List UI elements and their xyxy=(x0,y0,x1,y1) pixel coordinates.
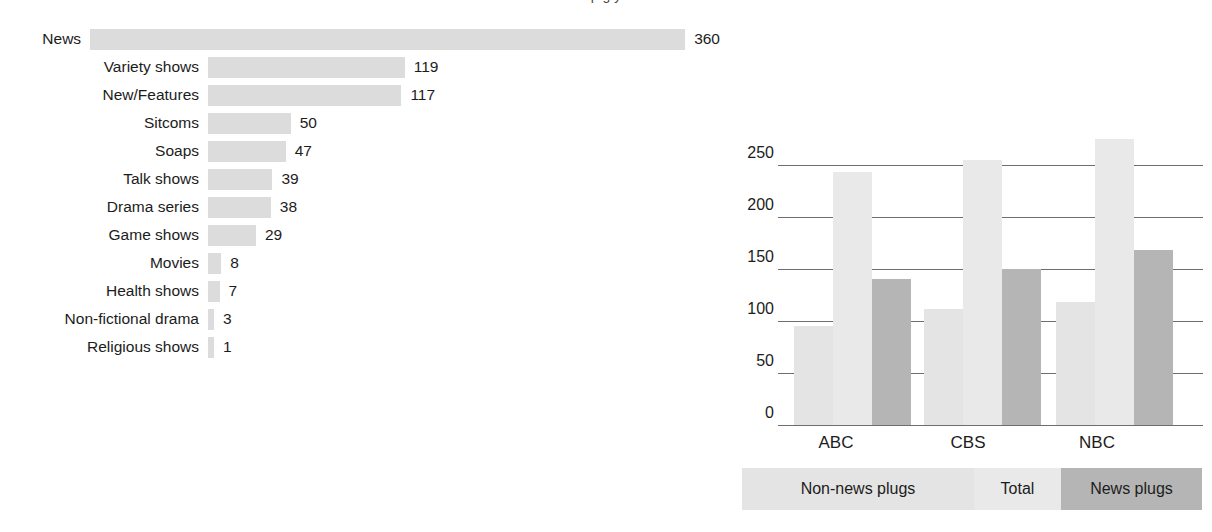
legend-item-total: Total xyxy=(974,468,1061,510)
bar-total-cbs xyxy=(963,160,1002,425)
bar-value-label: 47 xyxy=(286,140,312,162)
bar-group-abc xyxy=(794,165,911,425)
bar-track xyxy=(208,196,271,218)
bar-value-label: 38 xyxy=(271,196,297,218)
bar-value-label: 7 xyxy=(220,280,238,302)
y-axis-tick-label: 50 xyxy=(740,353,774,369)
bar-category-label: News xyxy=(0,28,90,50)
bars-area xyxy=(784,165,1203,425)
bar-category-label: Drama series xyxy=(0,196,208,218)
bar-row: Religious shows1 xyxy=(0,336,720,358)
legend-label-news-plugs: News plugs xyxy=(1090,480,1173,498)
bar-non-news-plugs-nbc xyxy=(1056,302,1095,425)
bar-news-plugs-nbc xyxy=(1134,250,1173,425)
y-axis-tick-label: 250 xyxy=(740,145,774,161)
bar-fill xyxy=(208,253,221,274)
bar-row: Variety shows119 xyxy=(0,56,720,78)
bar-value-label: 117 xyxy=(401,84,435,106)
bar-row: Sitcoms50 xyxy=(0,112,720,134)
bar-fill xyxy=(208,197,271,218)
bar-category-label: New/Features xyxy=(0,84,208,106)
y-axis-tick-label: 0 xyxy=(740,405,774,421)
bar-fill xyxy=(208,57,405,78)
bar-value-label: 29 xyxy=(256,224,282,246)
bar-fill xyxy=(90,29,685,50)
bar-fill xyxy=(208,85,401,106)
bar-value-label: 8 xyxy=(221,252,239,274)
bar-group-nbc xyxy=(1056,165,1173,425)
bar-non-news-plugs-abc xyxy=(794,326,833,425)
bar-category-label: Variety shows xyxy=(0,56,208,78)
legend-item-news-plugs: News plugs xyxy=(1061,468,1202,510)
bar-row: Non-fictional drama3 xyxy=(0,308,720,330)
bar-fill xyxy=(208,281,220,302)
bar-category-label: Talk shows xyxy=(0,168,208,190)
chart-legend: Non-news plugs Total News plugs xyxy=(742,468,1202,510)
legend-item-non-news-plugs: Non-news plugs xyxy=(742,468,974,510)
bar-row: New/Features117 xyxy=(0,84,720,106)
bar-value-label: 1 xyxy=(214,336,232,358)
bar-track xyxy=(208,112,291,134)
bar-track xyxy=(208,280,220,302)
bar-category-label: Game shows xyxy=(0,224,208,246)
bar-news-plugs-abc xyxy=(872,279,911,425)
x-axis-label-cbs: CBS xyxy=(923,433,1013,453)
figure-canvas: p g y News360Variety shows119New/Feature… xyxy=(0,0,1212,532)
bar-category-label: Sitcoms xyxy=(0,112,208,134)
bar-value-label: 119 xyxy=(405,56,439,78)
y-axis-tick-label: 150 xyxy=(740,249,774,265)
bar-category-label: Non-fictional drama xyxy=(0,308,208,330)
bar-row: Drama series38 xyxy=(0,196,720,218)
bar-track xyxy=(208,168,272,190)
bar-row: Movies8 xyxy=(0,252,720,274)
bar-fill xyxy=(208,113,291,134)
bar-row: Soaps47 xyxy=(0,140,720,162)
bar-value-label: 50 xyxy=(291,112,317,134)
figure-title-cutoff: p g y xyxy=(0,0,1212,3)
bar-fill xyxy=(208,225,256,246)
bar-non-news-plugs-cbs xyxy=(924,309,963,425)
bar-value-label: 3 xyxy=(214,308,232,330)
bar-news-plugs-cbs xyxy=(1002,269,1041,425)
bar-track xyxy=(208,56,405,78)
x-axis-label-nbc: NBC xyxy=(1052,433,1142,453)
bar-category-label: Religious shows xyxy=(0,336,208,358)
bar-fill xyxy=(208,169,272,190)
bar-fill xyxy=(208,141,286,162)
bar-track xyxy=(208,84,401,106)
bar-total-abc xyxy=(833,172,872,425)
plot-area: 250200150100500 xyxy=(740,108,1205,430)
x-axis-label-abc: ABC xyxy=(791,433,881,453)
bar-track xyxy=(90,28,685,50)
legend-label-non-news-plugs: Non-news plugs xyxy=(801,480,916,498)
network-plugs-bar-chart: 250200150100500 ABCCBSNBC xyxy=(740,108,1205,528)
x-axis-labels: ABCCBSNBC xyxy=(784,433,1203,463)
bar-group-cbs xyxy=(924,165,1041,425)
bar-row: Health shows7 xyxy=(0,280,720,302)
bar-total-nbc xyxy=(1095,139,1134,425)
legend-label-total: Total xyxy=(1001,480,1035,498)
bar-track xyxy=(208,140,286,162)
bar-value-label: 360 xyxy=(685,28,720,50)
gridline xyxy=(778,425,1203,426)
bar-category-label: Movies xyxy=(0,252,208,274)
y-axis-tick-label: 100 xyxy=(740,301,774,317)
program-type-bar-chart: News360Variety shows119New/Features117Si… xyxy=(0,28,720,364)
bar-track xyxy=(208,224,256,246)
bar-row: Talk shows39 xyxy=(0,168,720,190)
bar-row: Game shows29 xyxy=(0,224,720,246)
bar-category-label: Soaps xyxy=(0,140,208,162)
bar-value-label: 39 xyxy=(272,168,298,190)
bar-track xyxy=(208,252,221,274)
bar-category-label: Health shows xyxy=(0,280,208,302)
y-axis-tick-label: 200 xyxy=(740,197,774,213)
bar-row: News360 xyxy=(0,28,720,50)
